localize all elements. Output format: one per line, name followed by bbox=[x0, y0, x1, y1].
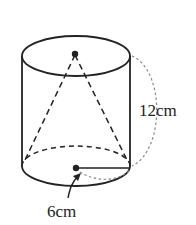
radius-label: 6cm bbox=[47, 203, 76, 220]
cone-right-slant bbox=[75, 55, 127, 160]
cone-left-slant bbox=[25, 55, 75, 160]
radius-dimension-arc bbox=[80, 170, 130, 179]
cylinder-bottom-back-arc bbox=[22, 146, 130, 166]
height-label: 12cm bbox=[139, 102, 177, 119]
top-center-dot bbox=[72, 51, 78, 57]
